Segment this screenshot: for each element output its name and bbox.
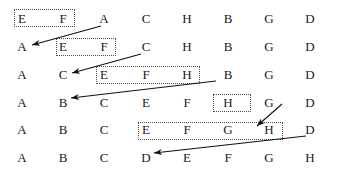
letter-cell: G [260, 151, 278, 164]
letter-cell: C [137, 12, 155, 25]
letter-cell: A [13, 96, 31, 109]
letter-cell: D [301, 68, 319, 81]
letter-cell: E [95, 68, 113, 81]
letter-cell: G [260, 96, 278, 109]
letter-cell: A [13, 151, 31, 164]
letter-cell: C [95, 151, 113, 164]
letter-cell: C [95, 123, 113, 136]
letter-cell: H [178, 68, 196, 81]
letter-cell: E [137, 123, 155, 136]
letter-cell: G [260, 40, 278, 53]
letter-cell: G [219, 123, 237, 136]
letter-cell: G [260, 68, 278, 81]
letter-cell: A [13, 40, 31, 53]
letter-cell: A [95, 12, 113, 25]
letter-cell: H [178, 40, 196, 53]
letter-cell: F [219, 151, 237, 164]
letter-cell: D [301, 123, 319, 136]
letter-cell: D [301, 12, 319, 25]
letter-cell: E [178, 151, 196, 164]
insertion-sort-diagram: E F A C H B G D A E F C H B G D A C E F … [0, 0, 337, 179]
letter-cell: D [301, 40, 319, 53]
letter-cell: B [219, 40, 237, 53]
letter-cell: E [13, 12, 31, 25]
letter-cell: F [137, 68, 155, 81]
letter-cell: F [178, 96, 196, 109]
letter-cell: F [54, 12, 72, 25]
letter-cell: A [13, 123, 31, 136]
letter-cell: H [219, 96, 237, 109]
letter-cell: G [260, 12, 278, 25]
letter-cell: F [178, 123, 196, 136]
letter-cell: H [178, 12, 196, 25]
letter-cell: D [137, 151, 155, 164]
letter-cell: B [54, 123, 72, 136]
letter-cell: E [137, 96, 155, 109]
letter-cell: H [301, 151, 319, 164]
letter-cell: E [54, 40, 72, 53]
letter-cell: F [95, 40, 113, 53]
letter-cell: D [301, 96, 319, 109]
letter-cell: C [137, 40, 155, 53]
letter-cell: B [219, 12, 237, 25]
letter-cell: B [219, 68, 237, 81]
letter-cell: C [54, 68, 72, 81]
letter-cell: B [54, 151, 72, 164]
letter-cell: A [13, 68, 31, 81]
letter-cell: C [95, 96, 113, 109]
letter-cell: H [260, 123, 278, 136]
letter-cell: B [54, 96, 72, 109]
